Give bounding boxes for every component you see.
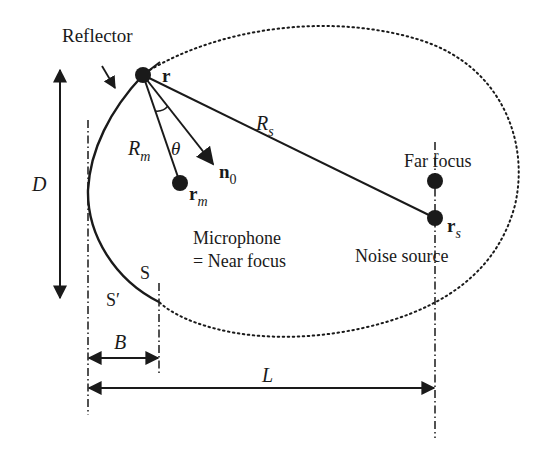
point-rs	[427, 210, 443, 226]
point-r	[135, 67, 151, 83]
label-rm: rm	[189, 183, 208, 209]
reflector-diagram: Reflector r Rm θ n0 rm Rs Far focus rs M…	[0, 0, 544, 462]
label-noise-source: Noise source	[355, 246, 448, 266]
label-far-focus: Far focus	[404, 151, 471, 171]
label-rs: rs	[447, 215, 461, 241]
label-Rm: Rm	[127, 137, 150, 164]
reflector-pointer-arrow	[102, 66, 115, 88]
label-theta: θ	[171, 138, 180, 159]
label-r: r	[162, 65, 171, 86]
label-n0: n0	[219, 161, 237, 187]
point-rm	[172, 175, 188, 191]
label-S-prime: S′	[106, 290, 120, 310]
theta-arc	[155, 106, 168, 111]
label-B: B	[114, 331, 126, 353]
label-microphone: Microphone	[193, 228, 281, 248]
label-reflector: Reflector	[62, 25, 133, 46]
ellipse-dotted-outline	[150, 26, 519, 337]
label-near-focus: = Near focus	[193, 251, 286, 271]
point-far-focus	[427, 173, 443, 189]
label-S: S	[140, 263, 150, 283]
label-L: L	[261, 364, 273, 386]
label-D: D	[31, 173, 47, 195]
Rs-line	[143, 75, 435, 218]
